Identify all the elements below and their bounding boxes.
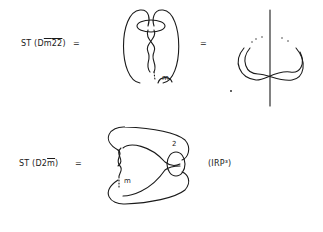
knot3-label-m: m <box>124 177 131 185</box>
knot-diagram-2 <box>230 10 303 106</box>
knot3-label-2: 2 <box>172 140 176 148</box>
knot-diagram-3 <box>108 127 188 204</box>
knot-diagrams: m m 2 <box>0 0 323 232</box>
knot1-label-m: m <box>162 74 169 82</box>
knot-diagram-1 <box>124 10 179 83</box>
